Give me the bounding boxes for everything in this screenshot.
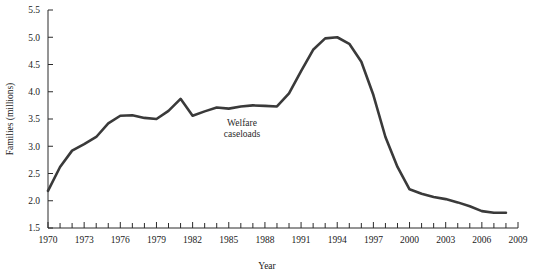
y-tick-label: 2.5 — [28, 169, 40, 179]
y-tick-label: 2.0 — [28, 196, 40, 206]
y-axis: 1.52.02.53.03.54.04.55.05.5 Families (mi… — [5, 5, 53, 233]
annotation-line-1: Welfare — [227, 118, 257, 128]
x-tick-label: 1973 — [75, 235, 94, 245]
y-axis-label: Families (millions) — [5, 83, 16, 156]
x-tick-label: 1982 — [183, 235, 202, 245]
y-tick-label: 3.5 — [28, 114, 40, 124]
y-tick-group — [48, 10, 53, 228]
x-tick-label: 2000 — [400, 235, 419, 245]
x-tick-label: 1988 — [255, 235, 274, 245]
x-tick-label: 1985 — [219, 235, 238, 245]
x-ticklabel-group: 1970197319761979198219851988199119941997… — [39, 235, 528, 245]
chart-svg: 1.52.02.53.03.54.04.55.05.5 Families (mi… — [0, 0, 534, 279]
y-tick-label: 5.5 — [28, 5, 40, 15]
series-group — [48, 37, 506, 212]
x-tick-label: 2006 — [472, 235, 491, 245]
y-tick-label: 5.0 — [28, 33, 40, 43]
x-tick-label: 1991 — [292, 235, 311, 245]
x-minor-tick-group — [48, 222, 518, 228]
x-tick-label: 2003 — [436, 235, 455, 245]
y-tick-label: 4.0 — [28, 87, 40, 97]
x-tick-label: 1970 — [39, 235, 58, 245]
chart-annotation: Welfarecaseloads — [224, 118, 261, 139]
x-tick-label: 1997 — [364, 235, 383, 245]
y-tick-label: 4.5 — [28, 60, 40, 70]
welfare-caseloads-chart: 1.52.02.53.03.54.04.55.05.5 Families (mi… — [0, 0, 534, 279]
x-tick-label: 1976 — [111, 235, 130, 245]
x-axis: 1970197319761979198219851988199119941997… — [39, 222, 528, 271]
x-tick-label: 1979 — [147, 235, 166, 245]
y-ticklabel-group: 1.52.02.53.03.54.04.55.05.5 — [28, 5, 40, 233]
y-tick-label: 3.0 — [28, 142, 40, 152]
x-tick-label: 1994 — [328, 235, 347, 245]
annotation-group: Welfarecaseloads — [224, 118, 261, 139]
y-tick-label: 1.5 — [28, 223, 40, 233]
annotation-line-2: caseloads — [224, 129, 261, 139]
x-axis-label: Year — [258, 261, 276, 271]
x-tick-label: 2009 — [509, 235, 528, 245]
series-line-welfare-caseloads — [48, 37, 506, 212]
